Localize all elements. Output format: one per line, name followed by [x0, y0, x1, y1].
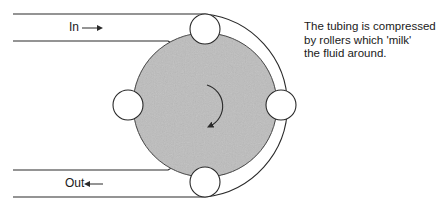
roller-top	[190, 14, 220, 44]
roller-bottom	[190, 167, 220, 197]
out-label: Out	[65, 177, 84, 190]
caption-line-2: by rollers which 'milk'	[304, 34, 436, 48]
roller-right	[266, 90, 296, 120]
rotor-disc	[133, 33, 277, 177]
caption: The tubing is compressed by rollers whic…	[304, 20, 436, 61]
roller-left	[113, 90, 143, 120]
in-label: In	[69, 21, 79, 34]
caption-line-1: The tubing is compressed	[304, 20, 436, 34]
caption-line-3: the fluid around.	[304, 47, 436, 61]
